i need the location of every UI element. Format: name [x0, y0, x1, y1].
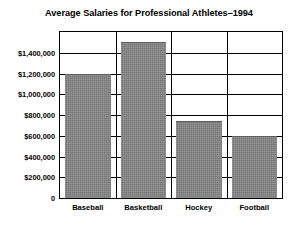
- x-axis-tick-label: Basketball: [116, 203, 172, 212]
- y-axis-tick-label: $800,000: [0, 111, 55, 120]
- y-axis-tick-label: $200,000: [0, 173, 55, 182]
- x-axis-tick-label: Hockey: [171, 203, 227, 212]
- bar-baseball: [65, 74, 111, 199]
- bar-football: [232, 136, 278, 198]
- category-separator: [171, 32, 172, 198]
- bar-chart-figure: Average Salaries for Professional Athlet…: [0, 0, 298, 233]
- chart-title: Average Salaries for Professional Athlet…: [0, 8, 298, 18]
- category-separator: [116, 32, 117, 198]
- y-axis-tick-label: $1,000,000: [0, 90, 55, 99]
- bar-basketball: [121, 42, 167, 198]
- plot-inner: [60, 32, 282, 198]
- category-separator: [227, 32, 228, 198]
- y-axis-tick-label: $600,000: [0, 131, 55, 140]
- x-axis-tick-label: Football: [227, 203, 283, 212]
- bar-hockey: [176, 121, 222, 198]
- y-axis-tick-label: $1,200,000: [0, 69, 55, 78]
- plot-area: [59, 31, 283, 199]
- y-axis-tick-label: $1,400,000: [0, 48, 55, 57]
- y-axis-tick-label: 0: [0, 194, 55, 203]
- x-axis-tick-label: Baseball: [60, 203, 116, 212]
- y-axis-tick-label: $400,000: [0, 152, 55, 161]
